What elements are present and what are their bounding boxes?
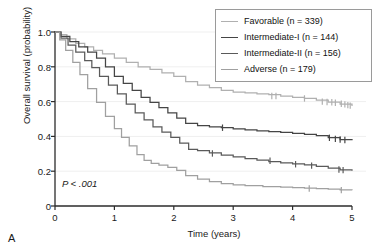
- kaplan-meier-figure: Overall survival (probability) 00.20.40.…: [0, 0, 377, 252]
- legend-item[interactable]: Intermediate-I (n = 144): [221, 29, 366, 45]
- legend-label-adverse: Adverse (n = 179): [244, 64, 316, 74]
- legend-label-intermediate-ii: Intermediate-II (n = 156): [244, 48, 341, 58]
- x-axis-label: Time (years): [55, 228, 373, 239]
- pvalue-annotation: P < .001: [62, 178, 97, 189]
- legend-item[interactable]: Favorable (n = 339): [221, 13, 366, 29]
- legend-line-swatch-adverse: [221, 69, 238, 70]
- legend-label-favorable: Favorable (n = 339): [244, 16, 323, 26]
- legend: Favorable (n = 339) Intermediate-I (n = …: [215, 9, 372, 82]
- legend-line-swatch-intermediate-i: [221, 37, 238, 38]
- legend-line-swatch-intermediate-ii: [221, 53, 238, 54]
- legend-label-intermediate-i: Intermediate-I (n = 144): [244, 32, 338, 42]
- legend-item[interactable]: Intermediate-II (n = 156): [221, 45, 366, 61]
- legend-line-swatch-favorable: [221, 21, 238, 22]
- legend-item[interactable]: Adverse (n = 179): [221, 61, 366, 77]
- panel-label: A: [8, 232, 16, 244]
